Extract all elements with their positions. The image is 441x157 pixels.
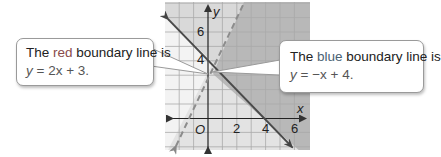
callout-prefix: The — [26, 45, 53, 60]
x-tick-2: 2 — [233, 121, 240, 136]
red-line-callout: The red boundary line is y = 2x + 3. — [16, 38, 154, 86]
x-axis-label: x — [296, 101, 304, 116]
blue-word: blue — [317, 49, 343, 64]
blue-line-callout: The blue boundary line is y = −x + 4. — [279, 40, 424, 93]
callout-suffix: boundary line is — [343, 49, 441, 64]
origin-label: O — [195, 122, 205, 137]
red-equation: y = 2x + 3. — [26, 63, 89, 78]
blue-equation: y = −x + 4. — [290, 67, 353, 82]
x-tick-6: 6 — [291, 121, 298, 136]
y-tick-4: 4 — [197, 52, 204, 67]
red-word: red — [53, 45, 73, 60]
callout-prefix: The — [290, 49, 317, 64]
y-tick-6: 6 — [197, 24, 204, 39]
x-tick-4: 4 — [262, 121, 269, 136]
callout-suffix: boundary line is — [73, 45, 171, 60]
